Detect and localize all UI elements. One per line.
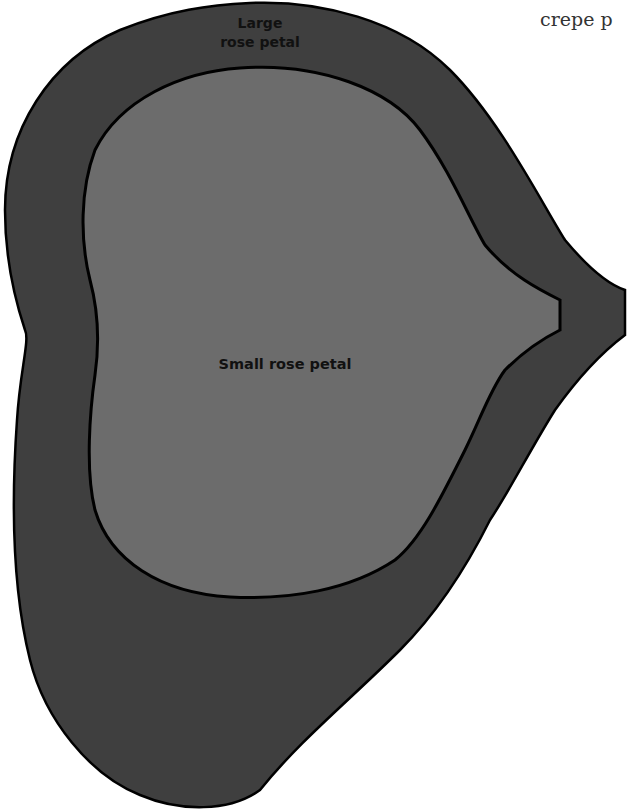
- large-label-line2: rose petal: [195, 33, 325, 52]
- large-label-line1: Large: [195, 14, 325, 33]
- large-rose-petal-label: Large rose petal: [195, 14, 325, 52]
- small-rose-petal-label: Small rose petal: [190, 355, 380, 374]
- rose-petal-diagram: [0, 0, 643, 812]
